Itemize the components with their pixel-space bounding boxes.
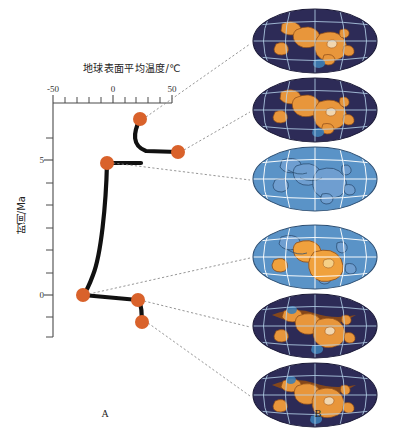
leader-line-3 bbox=[113, 163, 250, 180]
temperature-curve bbox=[83, 119, 178, 322]
leader-line-4 bbox=[89, 258, 250, 294]
globe-5 bbox=[252, 293, 378, 359]
leader-line-1 bbox=[146, 44, 250, 117]
data-point-marker bbox=[131, 293, 145, 307]
y-axis bbox=[44, 103, 53, 337]
data-point-marker bbox=[76, 288, 90, 302]
x-axis bbox=[53, 95, 172, 103]
panel-b-label: B bbox=[315, 408, 322, 419]
globe-1 bbox=[252, 8, 378, 74]
globe-4 bbox=[252, 224, 378, 290]
figure-root: 地球表面平均温度/℃ 时间/Ma -50 0 50 5 0 bbox=[0, 0, 395, 436]
panel-a-label: A bbox=[101, 408, 108, 419]
leader-line-5 bbox=[144, 301, 250, 327]
data-point-marker bbox=[135, 315, 149, 329]
data-point-marker bbox=[133, 112, 147, 126]
globe-2 bbox=[252, 77, 378, 143]
globe-3 bbox=[252, 146, 378, 212]
data-point-marker bbox=[100, 156, 114, 170]
data-point-marker bbox=[171, 145, 185, 159]
leader-line-6 bbox=[148, 323, 250, 396]
leader-line-2 bbox=[184, 112, 250, 150]
